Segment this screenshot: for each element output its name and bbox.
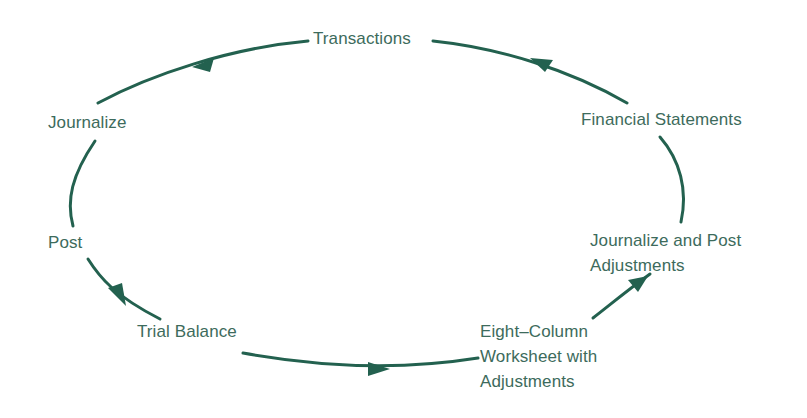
arrowhead-icon <box>530 58 553 72</box>
node-label: Financial Statements <box>581 110 742 129</box>
edge-adjustments-financialstatements <box>660 137 683 222</box>
edge-transactions-journalize <box>98 41 308 103</box>
node-label: Trial Balance <box>137 322 237 341</box>
node-label: Post <box>48 233 82 252</box>
node-worksheet: Eight–Column Worksheet with Adjustments <box>480 319 597 394</box>
edge-journalize-post <box>70 141 95 226</box>
node-post: Post <box>48 230 82 255</box>
node-label-line: Adjustments <box>590 253 741 278</box>
node-label-line: Journalize and Post <box>590 228 741 253</box>
edge-trialbalance-worksheet <box>243 353 478 366</box>
node-journalize: Journalize <box>48 110 127 135</box>
node-label-line: Worksheet with <box>480 344 597 369</box>
node-label: Journalize <box>48 113 127 132</box>
cycle-connectors <box>0 0 807 418</box>
node-transactions: Transactions <box>313 26 411 51</box>
node-label: Transactions <box>313 29 411 48</box>
node-trial-balance: Trial Balance <box>137 319 237 344</box>
accounting-cycle-diagram: Transactions Journalize Post Trial Balan… <box>0 0 807 418</box>
node-label-line: Eight–Column <box>480 319 597 344</box>
node-financial-statements: Financial Statements <box>581 107 742 132</box>
node-label-line: Adjustments <box>480 369 597 394</box>
edge-financialstatements-transactions <box>433 41 627 103</box>
edge-post-trialbalance <box>88 259 160 319</box>
node-journalize-post-adjustments: Journalize and Post Adjustments <box>590 228 741 278</box>
